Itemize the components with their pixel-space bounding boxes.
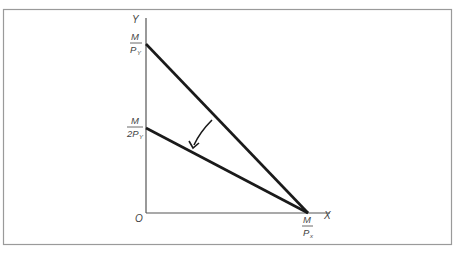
new-budget-line: [146, 128, 308, 213]
svg-text:P: P: [303, 227, 310, 238]
x-intercept-label: M P x: [302, 214, 314, 239]
original-budget-line: [146, 44, 308, 213]
origin-label: O: [135, 213, 143, 224]
svg-text:M: M: [131, 31, 139, 42]
y-intercept-label-1: M P Y: [130, 31, 142, 56]
svg-text:M: M: [303, 214, 311, 225]
svg-text:P: P: [130, 44, 137, 55]
rotation-arrow: [194, 120, 212, 145]
y-intercept-label-2: M 2P Y: [126, 115, 144, 140]
svg-text:x: x: [309, 233, 314, 239]
svg-text:Y: Y: [137, 50, 142, 56]
svg-text:2P: 2P: [126, 128, 139, 139]
svg-text:M: M: [131, 115, 139, 126]
x-axis-label: X: [323, 210, 331, 221]
figure-frame: [4, 10, 452, 245]
y-axis-label: Y: [132, 14, 140, 25]
budget-line-diagram: Y X O M P Y M 2P Y M P x: [0, 0, 457, 257]
svg-text:Y: Y: [139, 134, 144, 140]
